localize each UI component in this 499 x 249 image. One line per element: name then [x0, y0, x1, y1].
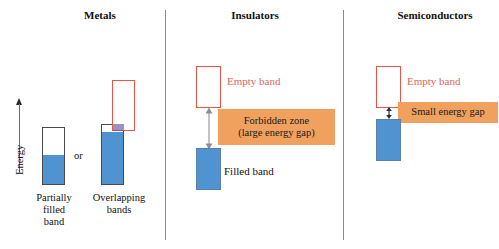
- overlapping-lower-band-fill: [102, 132, 123, 184]
- semiconductor-empty-band-label: Empty band: [407, 75, 460, 87]
- semiconductor-filled-band-rect: [376, 119, 401, 161]
- panel-divider-left: [165, 10, 166, 240]
- partially-filled-band-rect: [42, 127, 65, 185]
- panel-title-metals: Metals: [40, 9, 160, 21]
- panel-title-insulators: Insulators: [195, 9, 315, 21]
- partially-filled-band-caption: Partially filled band: [18, 192, 90, 228]
- insulator-empty-band-label: Empty band: [227, 75, 280, 87]
- band-overlap-region: [113, 124, 124, 131]
- semiconductor-gap-arrow-icon: [381, 107, 397, 119]
- overlapping-bands-caption: Overlapping bands: [83, 192, 155, 216]
- panel-divider-right: [343, 10, 344, 240]
- panel-title-semiconductors: Semiconductors: [375, 9, 495, 21]
- insulator-filled-band-label: Filled band: [224, 165, 274, 177]
- insulator-empty-band-rect: [196, 66, 221, 108]
- energy-axis-label: Energy: [14, 145, 25, 175]
- metals-or-connector: or: [74, 150, 83, 161]
- insulator-gap-callout: Forbidden zone (large energy gap): [218, 109, 335, 145]
- insulator-gap-arrow-icon: [201, 107, 217, 150]
- band-structure-diagram: Metals Insulators Semiconductors Energy …: [0, 0, 499, 249]
- insulator-filled-band-rect: [196, 148, 221, 190]
- overlapping-lower-band-rect: [101, 124, 124, 185]
- partially-filled-band-fill: [43, 155, 64, 184]
- semiconductor-gap-callout: Small energy gap: [398, 102, 498, 123]
